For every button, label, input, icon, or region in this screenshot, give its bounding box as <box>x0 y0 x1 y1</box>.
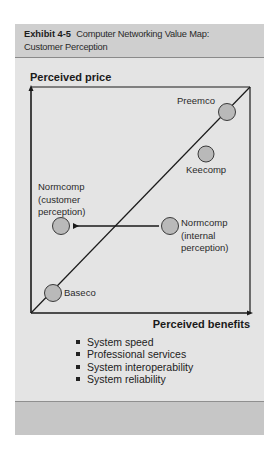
label-keecomp: Keecomp <box>186 164 226 177</box>
bullet-square-icon <box>76 377 80 381</box>
list-item: System interoperability <box>76 361 193 373</box>
bullet-square-icon <box>76 365 80 369</box>
list-item: System reliability <box>76 373 193 385</box>
list-item-label: System interoperability <box>87 361 193 373</box>
list-item-label: Professional services <box>87 348 186 360</box>
label-normcomp-internal-line2: (internal <box>181 230 215 241</box>
bubble-normcomp-customer <box>53 218 70 235</box>
bubble-normcomp-internal <box>162 218 179 235</box>
bubble-keecomp <box>198 146 214 162</box>
label-preemco: Preemco <box>177 95 215 108</box>
label-normcomp-internal-line3: perception) <box>181 242 229 253</box>
bubble-preemco <box>219 104 236 121</box>
label-normcomp-internal: Normcomp (internal perception) <box>181 217 229 255</box>
list-item: Professional services <box>76 348 193 360</box>
x-axis-label: Perceived benefits <box>153 318 250 330</box>
label-normcomp-customer-line3: perception) <box>38 206 86 217</box>
label-normcomp-internal-line1: Normcomp <box>181 217 227 228</box>
label-normcomp-customer-line2: (customer <box>38 194 80 205</box>
list-item-label: System reliability <box>87 373 166 385</box>
bullet-square-icon <box>76 352 80 356</box>
label-normcomp-customer: Normcomp (customer perception) <box>38 181 86 219</box>
label-normcomp-customer-line1: Normcomp <box>38 181 84 192</box>
list-item-label: System speed <box>87 336 154 348</box>
y-axis-arrow-icon <box>29 85 34 91</box>
benefit-factors-list: System speed Professional services Syste… <box>76 336 193 386</box>
bubble-baseco <box>45 285 62 302</box>
bullet-square-icon <box>76 340 80 344</box>
label-baseco: Baseco <box>64 287 96 300</box>
value-map-plot <box>0 0 277 456</box>
list-item: System speed <box>76 336 193 348</box>
